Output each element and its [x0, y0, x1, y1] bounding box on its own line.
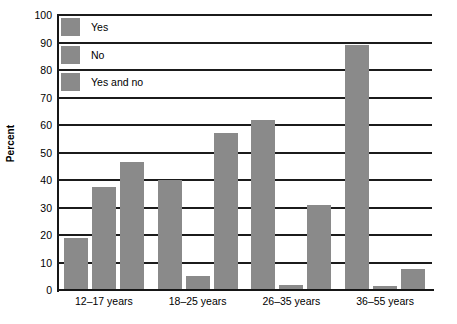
y-axis-tick-label: 90: [12, 38, 52, 48]
bar: [251, 120, 275, 291]
y-axis-tick-label: 70: [12, 93, 52, 103]
x-axis-category-label: 12–17 years: [57, 295, 151, 307]
bar: [307, 205, 331, 290]
legend-swatch-icon: [61, 18, 80, 36]
plot-area: [57, 15, 432, 290]
legend-swatch-icon: [61, 73, 80, 91]
bar: [158, 180, 182, 290]
bar: [214, 133, 238, 290]
gridline: [57, 97, 432, 99]
legend-item-label: Yes and no: [91, 76, 143, 88]
bar: [345, 45, 369, 290]
gridline: [57, 69, 432, 71]
y-axis-tick-label: 20: [12, 230, 52, 240]
gridline: [57, 42, 432, 44]
legend-item-label: Yes: [91, 21, 108, 33]
legend-swatch-icon: [61, 46, 80, 64]
gridline: [57, 124, 432, 126]
y-axis-tick-label: 10: [12, 258, 52, 268]
bar-chart-figure: Percent 0102030405060708090100 YesNoYes …: [0, 0, 457, 324]
y-axis-tick-label: 0: [12, 285, 52, 295]
x-axis-category-label: 18–25 years: [151, 295, 245, 307]
y-axis-tick-label: 80: [12, 65, 52, 75]
x-axis-line: [57, 289, 434, 291]
legend-item-label: No: [91, 49, 104, 61]
gridline: [57, 152, 432, 154]
bar: [120, 162, 144, 290]
y-axis-tick-label: 40: [12, 175, 52, 185]
y-axis-tick-label: 60: [12, 120, 52, 130]
bar: [186, 276, 210, 290]
y-axis-tick-label: 30: [12, 203, 52, 213]
y-axis-tick-label: 50: [12, 148, 52, 158]
y-axis-tick-label: 100: [12, 10, 52, 20]
x-axis-category-label: 36–55 years: [338, 295, 432, 307]
bar: [92, 187, 116, 290]
gridline: [57, 14, 432, 16]
gridline: [57, 179, 432, 181]
bar: [64, 238, 88, 290]
x-axis-category-label: 26–35 years: [245, 295, 339, 307]
bar: [401, 269, 425, 290]
y-axis-tick-labels: 0102030405060708090100: [8, 0, 52, 324]
